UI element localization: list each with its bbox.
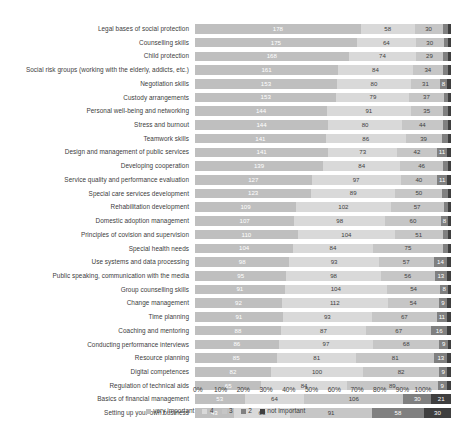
bar-segment: 85 <box>195 353 277 363</box>
legend-label: 2 <box>248 408 252 415</box>
chart-row: Service quality and performance evaluati… <box>0 173 451 187</box>
bar-segment: 54 <box>387 285 440 295</box>
category-label: Regulation of technical aids <box>0 379 195 393</box>
bar-segment <box>447 381 451 391</box>
bar-segment: 97 <box>312 175 401 185</box>
category-label: Rehabilitation development <box>0 200 195 214</box>
legend-label: not important <box>267 408 305 415</box>
bar-segment: 144 <box>195 120 328 130</box>
bar-segment <box>447 353 451 363</box>
chart-row: Principles of covision and supervision11… <box>0 228 451 242</box>
x-axis-tick: 20% <box>232 386 254 393</box>
bar-segment: 44 <box>402 120 443 130</box>
stacked-bar: 82100829 <box>195 367 451 377</box>
stacked-bar: 88876716 <box>195 326 451 336</box>
bar-segment: 8 <box>440 285 448 295</box>
bar-segment: 86 <box>195 340 279 350</box>
stacked-bar: 91104548 <box>195 285 451 295</box>
category-label: Coaching and mentoring <box>0 324 195 338</box>
legend-swatch-icon <box>146 409 151 414</box>
chart-row: Legal bases of social protection1785830 <box>0 22 451 36</box>
category-label: Negotiation skills <box>0 77 195 91</box>
chart-row: Change management92112549 <box>0 296 451 310</box>
stacked-bar: 1537937 <box>195 93 451 103</box>
x-axis-tick: 40% <box>278 386 300 393</box>
category-label: Time planning <box>0 310 195 324</box>
bar-segment: 58 <box>361 24 415 34</box>
stacked-bar: 1238950 <box>195 189 451 199</box>
stacked-bar: 1618434 <box>195 65 451 75</box>
bar-segment: 60 <box>385 216 441 226</box>
legend-item[interactable]: very important <box>146 408 195 415</box>
bar-segment <box>447 148 451 158</box>
bar-segment: 84 <box>293 244 372 254</box>
category-label: Developing cooperation <box>0 159 195 173</box>
category-label: Teamwork skills <box>0 132 195 146</box>
bar-segment: 35 <box>411 106 443 116</box>
chart-row: Child protection1687429 <box>0 49 451 63</box>
chart-row: Time planning91936711 <box>0 310 451 324</box>
chart-row: Use systems and data processing98935714 <box>0 255 451 269</box>
bar-segment: 82 <box>195 367 271 377</box>
bar-segment: 30 <box>416 38 444 48</box>
bar-segment: 127 <box>195 175 312 185</box>
x-axis-tick: 90% <box>392 386 414 393</box>
bar-segment: 42 <box>397 148 437 158</box>
bar-segment: 75 <box>373 244 444 254</box>
bar-segment: 82 <box>363 367 439 377</box>
category-label: Resource planning <box>0 351 195 365</box>
category-label: Design and management of public services <box>0 145 195 159</box>
bar-segment: 84 <box>323 161 400 171</box>
chart-row: Negotiation skills15380318 <box>0 77 451 91</box>
bar-segment <box>447 271 451 281</box>
chart-row: Conducting performance interviews8697689 <box>0 338 451 352</box>
bar-segment: 30 <box>415 24 443 34</box>
stacked-bar: 127974011 <box>195 175 451 185</box>
chart-row: Special care services development1238950 <box>0 187 451 201</box>
legend-swatch-icon <box>241 409 246 414</box>
category-label: Special care services development <box>0 187 195 201</box>
stacked-bar: 15380318 <box>195 79 451 89</box>
bar-segment: 13 <box>434 353 447 363</box>
chart-row: Domestic adoption management10798608 <box>0 214 451 228</box>
bar-segment: 67 <box>372 312 436 322</box>
stacked-bar: 85818113 <box>195 353 451 363</box>
category-label: Use systems and data processing <box>0 255 195 269</box>
category-label: Domestic adoption management <box>0 214 195 228</box>
category-label: Stress and burnout <box>0 118 195 132</box>
bar-segment <box>447 312 451 322</box>
legend-item[interactable]: not important <box>260 408 305 415</box>
bar-segment: 68 <box>373 340 439 350</box>
bar-segment: 92 <box>195 298 282 308</box>
bar-segment: 11 <box>437 312 448 322</box>
chart-row: Special health needs1048475 <box>0 242 451 256</box>
stacked-bar: 53641063021 <box>195 394 451 404</box>
bar-segment: 109 <box>195 202 296 212</box>
stacked-bar: 1756430 <box>195 38 451 48</box>
legend-item[interactable]: 2 <box>241 408 252 415</box>
bar-segment: 100 <box>271 367 363 377</box>
legend-label: 4 <box>210 408 214 415</box>
bar-segment: 79 <box>336 93 409 103</box>
bar-segment: 141 <box>195 134 326 144</box>
bar-segment: 53 <box>195 394 245 404</box>
bar-segment: 50 <box>395 189 442 199</box>
bar-segment: 30 <box>403 394 431 404</box>
legend-item[interactable]: 3 <box>222 408 233 415</box>
bar-segment: 104 <box>298 230 395 240</box>
stacked-bar: 91936711 <box>195 312 451 322</box>
chart-row: Basics of financial management5364106302… <box>0 392 451 406</box>
bar-segment: 80 <box>328 120 402 130</box>
bar-segment <box>447 298 451 308</box>
bar-segment: 46 <box>400 161 442 171</box>
bar-segment: 93 <box>283 312 373 322</box>
bar-segment: 64 <box>245 394 305 404</box>
bar-segment: 153 <box>195 93 336 103</box>
legend-item[interactable]: 4 <box>202 408 213 415</box>
x-axis: 0%10%20%30%40%50%60%70%80%90%100% <box>195 386 434 393</box>
stacked-bar: 1687429 <box>195 52 451 62</box>
chart-row: Teamwork skills1418639 <box>0 132 451 146</box>
x-axis-tick: 70% <box>346 386 368 393</box>
category-label: Digital competences <box>0 365 195 379</box>
category-label: Legal bases of social protection <box>0 22 195 36</box>
